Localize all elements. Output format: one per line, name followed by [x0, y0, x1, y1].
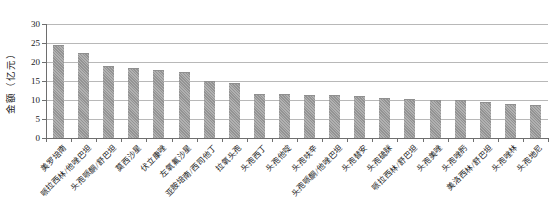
bar [103, 66, 114, 139]
bar [329, 95, 340, 139]
y-tick-label: 25 [20, 38, 40, 48]
bar [505, 104, 516, 139]
bar [304, 95, 315, 139]
bar [279, 94, 290, 139]
y-tick-label: 15 [20, 76, 40, 86]
bar [153, 70, 164, 139]
gridline [46, 24, 548, 25]
x-axis-tick [548, 138, 549, 142]
bar [53, 45, 64, 139]
y-tick-label: 20 [20, 57, 40, 67]
bar [254, 94, 265, 139]
bar [354, 96, 365, 139]
bar [530, 105, 541, 139]
y-tick-label: 30 [20, 19, 40, 29]
bar [179, 72, 190, 139]
gridline [46, 43, 548, 44]
y-tick-label: 10 [20, 95, 40, 105]
gridline [46, 81, 548, 82]
y-axis-line [46, 24, 47, 138]
bar [229, 83, 240, 139]
x-axis-line [46, 138, 548, 139]
y-tick-label: 0 [20, 133, 40, 143]
bar [128, 68, 139, 139]
bar [455, 100, 466, 139]
bar-chart: 金额（亿元） 051015202530美罗培南哌拉西林/他唑巴坦头孢哌酮/舒巴坦… [0, 0, 555, 223]
bar [480, 102, 491, 139]
gridline [46, 62, 548, 63]
bar [78, 53, 89, 139]
bar [204, 81, 215, 139]
bar [379, 98, 390, 139]
bar [430, 100, 441, 139]
y-axis-title: 金额（亿元） [3, 48, 17, 114]
bar [404, 99, 415, 139]
y-tick-label: 5 [20, 114, 40, 124]
gridline [46, 100, 548, 101]
gridline [46, 119, 548, 120]
